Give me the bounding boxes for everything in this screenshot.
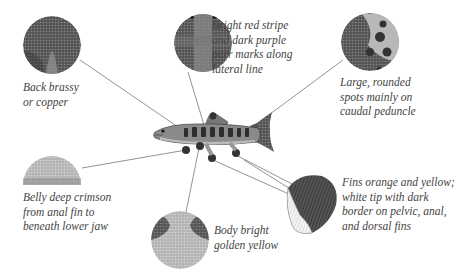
- callout-spots: Large, rounded spots mainly on caudal pe…: [340, 75, 416, 119]
- golden-trout-illustration: [154, 112, 275, 162]
- callout-back: Back brassy or copper: [23, 80, 79, 109]
- back-swatch: [22, 16, 81, 74]
- callout-fins: Fins orange and yellow; white tip with d…: [342, 175, 455, 233]
- callout-body: Body bright golden yellow: [214, 223, 278, 252]
- body-swatch: [151, 211, 209, 269]
- callout-stripe: Bright red stripe and dark purple parr m…: [212, 18, 293, 76]
- spots-swatch: [341, 13, 399, 72]
- callout-belly: Belly deep crimson from anal fin to bene…: [23, 190, 111, 234]
- fin-swatch: [287, 175, 337, 233]
- belly-swatch: [23, 156, 81, 185]
